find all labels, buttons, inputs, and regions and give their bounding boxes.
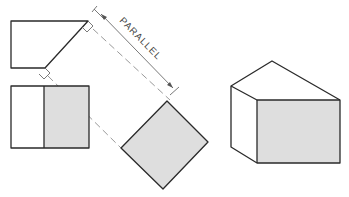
diagram-canvas: PARALLEL — [0, 0, 349, 197]
right-angle-mark-bottom — [39, 68, 50, 79]
isometric-view — [231, 61, 340, 163]
front-view — [11, 86, 89, 148]
projection-line-upper — [93, 29, 170, 100]
top-view-outline — [11, 21, 88, 68]
extension-tick-end — [170, 87, 179, 95]
top-view — [11, 21, 93, 79]
auxiliary-view — [121, 101, 208, 189]
extension-tick-start — [94, 9, 104, 19]
